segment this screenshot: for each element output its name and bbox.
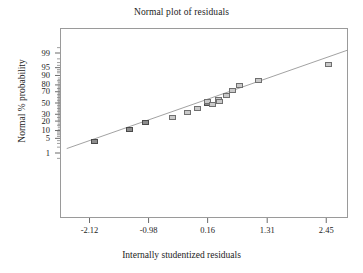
data-point-marker <box>184 110 191 115</box>
data-point-marker <box>216 99 223 104</box>
data-point-marker <box>223 93 230 98</box>
normal-probability-plot: Normal plot of residuals 999590807050302… <box>0 0 363 273</box>
y-tick-label: 99 <box>28 49 50 58</box>
y-tick-label: 50 <box>28 99 50 108</box>
chart-title: Normal plot of residuals <box>0 7 363 17</box>
data-point-marker <box>126 127 133 132</box>
x-tick-label: -0.98 <box>129 226 169 235</box>
y-tick-label: 1 <box>28 149 50 158</box>
y-tick-label: 90 <box>28 71 50 80</box>
y-tick-label: 70 <box>28 87 50 96</box>
data-point-marker <box>194 106 201 111</box>
y-tick-label: 20 <box>28 117 50 126</box>
x-axis-ticks <box>90 218 327 223</box>
data-point-marker <box>142 120 149 125</box>
data-point-marker <box>325 62 332 67</box>
data-point-marker <box>229 88 236 93</box>
data-point-marker <box>255 78 262 83</box>
data-point-marker <box>91 139 98 144</box>
plot-area-frame <box>60 28 348 218</box>
y-tick-label: 5 <box>28 134 50 143</box>
data-point-marker <box>236 83 243 88</box>
data-point-marker <box>169 115 176 120</box>
y-axis-title: Normal % probability <box>17 31 27 171</box>
x-tick-label: 1.31 <box>247 226 287 235</box>
x-tick-label: -2.12 <box>70 226 110 235</box>
x-tick-label: 2.45 <box>306 226 346 235</box>
x-tick-label: 0.16 <box>188 226 228 235</box>
x-axis-title: Internally studentized residuals <box>0 250 363 260</box>
